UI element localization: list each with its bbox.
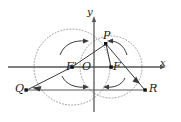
label-point-Q: Q <box>15 83 24 94</box>
label-focus-F: F <box>113 61 121 72</box>
arrow-lower-right-head <box>103 85 109 90</box>
label-y-axis: y <box>87 7 93 17</box>
arrow-upper-left-curve <box>60 41 86 55</box>
arrow-upper-left-head <box>83 39 89 44</box>
label-origin-O: O <box>82 61 91 72</box>
label-point-P: P <box>103 30 110 41</box>
geometry-figure: P F F' O Q R x y <box>0 0 181 122</box>
label-x-axis: x <box>160 58 166 68</box>
label-point-R: R <box>149 83 157 94</box>
arrow-lower-left-curve <box>62 76 86 87</box>
point-Q <box>24 88 27 91</box>
point-R <box>143 88 146 91</box>
point-P <box>104 42 107 45</box>
label-focus-F-prime: F' <box>66 61 77 72</box>
